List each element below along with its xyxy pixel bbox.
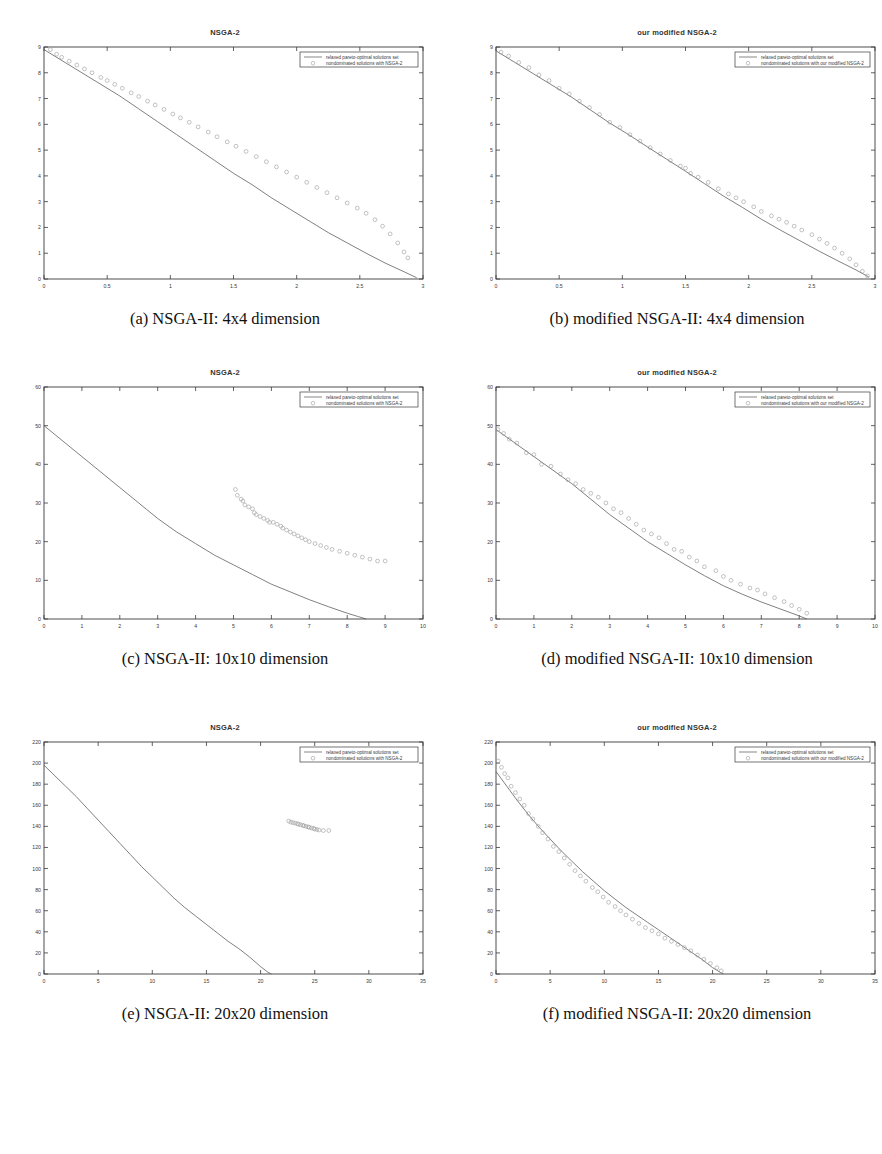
data-point-marker (516, 61, 520, 65)
nondominated-points (499, 50, 869, 278)
x-tick-label: 0 (494, 283, 497, 289)
x-tick-label: 8 (345, 623, 348, 629)
data-point-marker (617, 126, 621, 130)
data-point-marker (672, 548, 676, 552)
y-tick-label: 20 (487, 539, 493, 545)
y-tick-label: 140 (32, 823, 41, 829)
plot-title-d: our modified NSGA-2 (470, 368, 882, 377)
data-point-marker (784, 220, 788, 224)
x-tick-label: 2.5 (356, 283, 363, 289)
x-tick-label: 7 (759, 623, 762, 629)
data-point-marker (573, 869, 577, 873)
data-point-marker (388, 232, 392, 236)
data-point-marker (817, 237, 821, 241)
data-point-marker (618, 909, 622, 913)
x-tick-label: 15 (655, 978, 661, 984)
legend-label: relaxed pareto-optimal solutions set (326, 395, 399, 400)
x-tick-label: 1 (620, 283, 623, 289)
y-tick-label: 60 (35, 908, 41, 914)
y-tick-label: 9 (38, 44, 41, 50)
x-tick-label: 10 (420, 623, 426, 629)
data-point-marker (513, 791, 517, 795)
plot-frame (496, 742, 875, 974)
x-tick-label: 30 (365, 978, 371, 984)
data-point-marker (284, 170, 288, 174)
y-tick-label: 40 (35, 929, 41, 935)
y-tick-label: 20 (35, 950, 41, 956)
data-point-marker (590, 886, 594, 890)
y-tick-label: 0 (38, 276, 41, 282)
x-tick-label: 0 (42, 283, 45, 289)
data-point-marker (601, 895, 605, 899)
data-point-marker (763, 592, 767, 596)
data-point-marker (716, 187, 720, 191)
y-tick-label: 0 (38, 616, 41, 622)
x-tick-label: 1 (532, 623, 535, 629)
data-point-marker (694, 559, 698, 563)
plot-frame (496, 47, 875, 279)
y-tick-label: 7 (38, 96, 41, 102)
data-point-marker (517, 797, 521, 801)
data-point-marker (526, 66, 530, 70)
data-point-marker (145, 99, 149, 103)
data-point-marker (324, 546, 328, 550)
chart-plot-area-e: 0510152025303502040608010012014016018020… (18, 734, 433, 994)
x-tick-label: 9 (835, 623, 838, 629)
y-tick-label: 80 (35, 887, 41, 893)
data-point-marker (596, 495, 600, 499)
x-tick-label: 35 (420, 978, 426, 984)
data-point-marker (317, 828, 321, 832)
data-point-marker (556, 850, 560, 854)
x-tick-label: 9 (383, 623, 386, 629)
data-point-marker (178, 116, 182, 120)
data-point-marker (292, 532, 296, 536)
x-tick-label: 30 (817, 978, 823, 984)
pareto-front-line (44, 50, 417, 278)
legend-label: nondominated solutions with NSGA-2 (326, 756, 403, 761)
figure-caption-e: (e) NSGA-II: 20x20 dimension (122, 1004, 329, 1024)
data-point-marker (792, 224, 796, 228)
data-point-marker (355, 206, 359, 210)
data-point-marker (502, 772, 506, 776)
data-point-marker (643, 926, 647, 930)
y-tick-label: 180 (484, 781, 493, 787)
y-tick-label: 0 (490, 276, 493, 282)
data-point-marker (606, 900, 610, 904)
data-point-marker (233, 488, 237, 492)
data-point-marker (307, 540, 311, 544)
y-tick-label: 60 (487, 384, 493, 390)
data-point-marker (326, 829, 330, 833)
figure-panel-e: NSGA-20510152025303502040608010012014016… (10, 723, 440, 1078)
data-point-marker (854, 263, 858, 267)
data-point-marker (713, 569, 717, 573)
data-point-marker (246, 505, 250, 509)
data-point-marker (799, 228, 803, 232)
data-point-marker (847, 257, 851, 261)
figure-panel-f: our modified NSGA-2051015202530350204060… (462, 723, 882, 1078)
x-tick-label: 1 (80, 623, 83, 629)
data-point-marker (656, 932, 660, 936)
x-tick-label: 5 (232, 623, 235, 629)
plot-title-a: NSGA-2 (18, 28, 433, 37)
x-tick-label: 0.5 (103, 283, 110, 289)
pareto-front-line (44, 765, 271, 974)
y-tick-label: 40 (35, 461, 41, 467)
y-tick-label: 220 (32, 739, 41, 745)
y-tick-label: 60 (35, 384, 41, 390)
data-point-marker (395, 241, 399, 245)
data-point-marker (321, 829, 325, 833)
data-point-marker (663, 936, 667, 940)
data-point-marker (215, 135, 219, 139)
pareto-front-line (496, 430, 807, 619)
chart-plot-area-c: 0123456789100102030405060relaxed pareto-… (18, 379, 433, 639)
data-point-marker (687, 555, 691, 559)
data-point-marker (715, 966, 719, 970)
caption-row-e: (e) NSGA-II: 20x20 dimension (10, 994, 440, 1024)
data-point-marker (506, 54, 510, 58)
caption-row-b: (b) modified NSGA-II: 4x4 dimension (462, 299, 882, 329)
data-point-marker (832, 246, 836, 250)
data-point-marker (496, 759, 500, 763)
data-point-marker (624, 913, 628, 917)
data-point-marker (669, 939, 673, 943)
data-point-marker (809, 233, 813, 237)
